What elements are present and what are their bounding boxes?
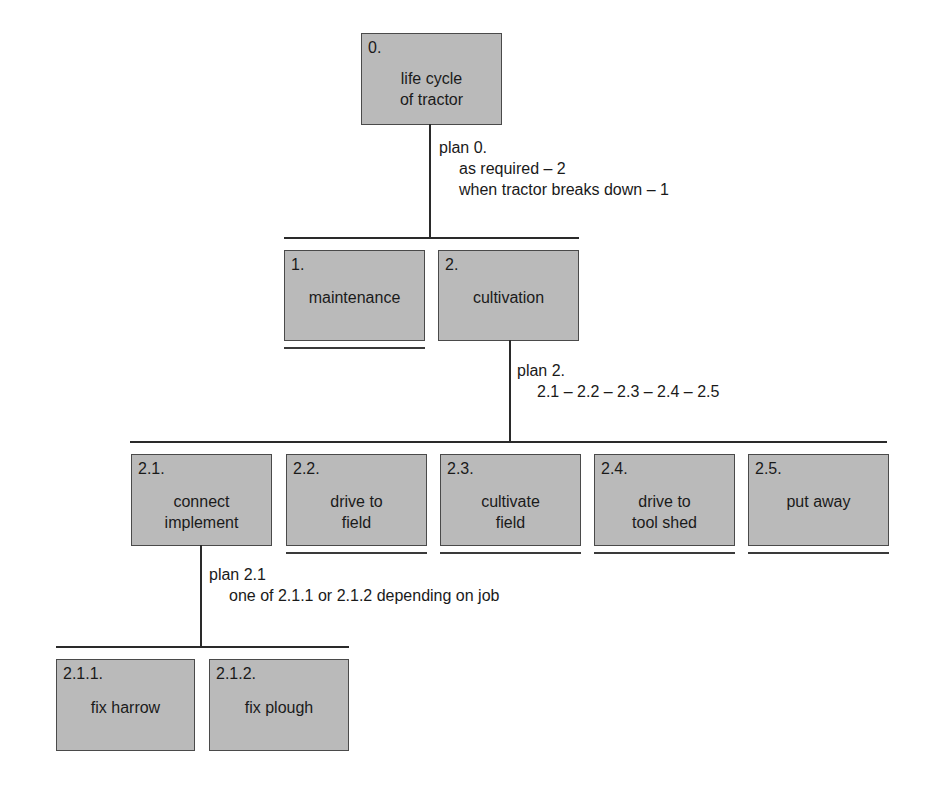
node-label: life cycle of tractor <box>362 68 501 110</box>
plan-title: plan 0. <box>439 139 487 156</box>
stop-underline <box>286 552 427 554</box>
node-number: 2.1.1. <box>63 665 103 683</box>
node-2-cultivation: 2. cultivation <box>438 250 579 341</box>
node-number: 2.4. <box>601 460 628 478</box>
node-number: 2.1.2. <box>216 665 256 683</box>
node-2-1-1-fix-harrow: 2.1.1. fix harrow <box>56 659 195 751</box>
plan-line: 2.1 – 2.2 – 2.3 – 2.4 – 2.5 <box>517 381 719 402</box>
plan-line: when tractor breaks down – 1 <box>439 179 669 200</box>
connector-2 <box>509 340 511 443</box>
connector-0 <box>429 124 431 239</box>
node-2-3-cultivate-field: 2.3. cultivate field <box>440 454 581 546</box>
node-2-4-drive-to-tool-shed: 2.4. drive to tool shed <box>594 454 735 546</box>
branch-bar-level-1 <box>284 237 579 239</box>
plan-2: plan 2. 2.1 – 2.2 – 2.3 – 2.4 – 2.5 <box>517 360 719 402</box>
node-2-1-connect-implement: 2.1. connect implement <box>131 454 272 546</box>
node-number: 2.5. <box>755 460 782 478</box>
node-label: drive to tool shed <box>595 491 734 533</box>
plan-0: plan 0. as required – 2 when tractor bre… <box>439 137 669 200</box>
stop-underline <box>748 552 889 554</box>
plan-title: plan 2.1 <box>209 566 266 583</box>
node-label: fix harrow <box>57 697 194 718</box>
branch-bar-level-2 <box>130 441 887 443</box>
node-1-maintenance: 1. maintenance <box>284 250 425 341</box>
node-label: maintenance <box>285 287 424 308</box>
connector-2-1 <box>200 545 202 648</box>
branch-bar-level-3 <box>56 646 349 648</box>
node-label: cultivate field <box>441 491 580 533</box>
node-0-life-cycle-of-tractor: 0. life cycle of tractor <box>361 33 502 125</box>
node-label: put away <box>749 491 888 512</box>
node-number: 1. <box>291 256 304 274</box>
node-number: 2.3. <box>447 460 474 478</box>
plan-2-1: plan 2.1 one of 2.1.1 or 2.1.2 depending… <box>209 564 499 606</box>
node-2-2-drive-to-field: 2.2. drive to field <box>286 454 427 546</box>
node-2-1-2-fix-plough: 2.1.2. fix plough <box>209 659 349 751</box>
node-label: connect implement <box>132 491 271 533</box>
node-number: 2. <box>445 256 458 274</box>
node-number: 2.2. <box>293 460 320 478</box>
plan-line: as required – 2 <box>439 158 669 179</box>
stop-underline <box>284 347 425 349</box>
stop-underline <box>594 552 735 554</box>
node-number: 2.1. <box>138 460 165 478</box>
plan-title: plan 2. <box>517 362 565 379</box>
plan-line: one of 2.1.1 or 2.1.2 depending on job <box>209 585 499 606</box>
node-label: cultivation <box>439 287 578 308</box>
node-label: fix plough <box>210 697 348 718</box>
node-label: drive to field <box>287 491 426 533</box>
node-2-5-put-away: 2.5. put away <box>748 454 889 546</box>
stop-underline <box>440 552 581 554</box>
node-number: 0. <box>368 39 381 57</box>
